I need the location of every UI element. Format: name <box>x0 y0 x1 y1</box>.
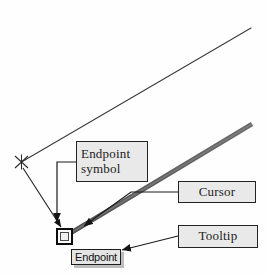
endpoint-symbol-square-inner <box>60 232 69 241</box>
leader-tooltip <box>122 236 178 250</box>
callout-endpoint-symbol: Endpoint symbol <box>76 141 148 182</box>
callout-tooltip-label: Tooltip <box>199 229 238 244</box>
callout-cursor-label: Cursor <box>199 185 236 200</box>
callout-tooltip: Tooltip <box>178 225 258 248</box>
leader-marker-to-endpoint <box>23 168 61 227</box>
endpoint-tooltip-label: Endpoint <box>75 251 117 263</box>
endpoint-snap-figure: Endpoint Endpoint symbol Cursor Tooltip <box>0 0 266 275</box>
x-marker <box>15 155 28 170</box>
callout-endpoint-symbol-label: Endpoint symbol <box>81 147 130 176</box>
callout-cursor: Cursor <box>178 181 256 203</box>
leader-endpoint-symbol <box>57 162 76 222</box>
endpoint-tooltip: Endpoint <box>71 249 121 265</box>
